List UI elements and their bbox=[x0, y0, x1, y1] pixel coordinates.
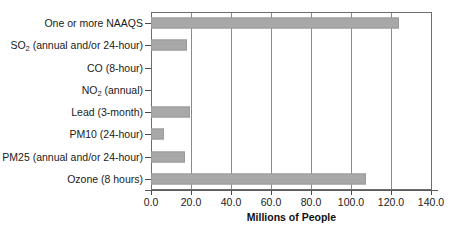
x-tick-label-140: 140.0 bbox=[418, 196, 444, 208]
y-tick bbox=[145, 23, 151, 24]
bar-row bbox=[151, 57, 432, 79]
bar-one-or-more-naaqs bbox=[151, 18, 399, 29]
bar-row bbox=[151, 123, 432, 145]
bar-row bbox=[151, 34, 432, 56]
y-tick bbox=[145, 90, 151, 91]
y-label-pm25: PM25 (annual and/or 24-hour) bbox=[2, 146, 143, 168]
x-tick bbox=[191, 191, 192, 195]
bar-so2 bbox=[151, 40, 187, 51]
bar-row bbox=[151, 79, 432, 101]
bar-row bbox=[151, 12, 432, 34]
y-tick bbox=[145, 157, 151, 158]
y-label-no2: NO2 (annual) bbox=[82, 79, 143, 101]
x-tick bbox=[391, 191, 392, 195]
x-tick bbox=[271, 191, 272, 195]
x-tick-label-0: 0.0 bbox=[144, 196, 159, 208]
y-label-co: CO (8-hour) bbox=[87, 57, 143, 79]
bar-pm10 bbox=[151, 129, 164, 140]
bar-pm25 bbox=[151, 151, 185, 162]
x-tick-label-120: 120.0 bbox=[378, 196, 404, 208]
bar-row bbox=[151, 146, 432, 168]
x-tick bbox=[231, 191, 232, 195]
y-label-lead: Lead (3-month) bbox=[71, 101, 143, 123]
x-tick bbox=[151, 191, 152, 195]
bar-row bbox=[151, 168, 432, 190]
y-tick bbox=[145, 179, 151, 180]
y-tick bbox=[145, 68, 151, 69]
y-label-so2: SO2 (annual and/or 24-hour) bbox=[10, 34, 143, 56]
y-axis-labels: One or more NAAQS SO2 (annual and/or 24-… bbox=[0, 12, 143, 190]
chart-page: One or more NAAQS SO2 (annual and/or 24-… bbox=[0, 0, 452, 234]
x-axis-title: Millions of People bbox=[151, 211, 432, 223]
y-label-ozone: Ozone (8 hours) bbox=[67, 168, 143, 190]
y-tick bbox=[145, 134, 151, 135]
x-tick bbox=[351, 191, 352, 195]
y-tick bbox=[145, 112, 151, 113]
y-axis-ticks bbox=[145, 12, 151, 190]
y-tick bbox=[145, 45, 151, 46]
y-label-one-or-more-naaqs: One or more NAAQS bbox=[44, 12, 143, 34]
x-tick-label-60: 60.0 bbox=[261, 196, 281, 208]
x-tick-label-40: 40.0 bbox=[221, 196, 241, 208]
x-tick-label-20: 20.0 bbox=[181, 196, 201, 208]
bar-ozone bbox=[151, 173, 366, 184]
bar-series bbox=[151, 12, 432, 190]
x-axis-tick-labels: 0.0 20.0 40.0 60.0 80.0 100.0 120.0 140.… bbox=[0, 196, 452, 210]
bar-row bbox=[151, 101, 432, 123]
x-tick-label-80: 80.0 bbox=[301, 196, 321, 208]
y-label-pm10: PM10 (24-hour) bbox=[69, 123, 143, 145]
x-tick-label-100: 100.0 bbox=[338, 196, 364, 208]
x-tick bbox=[311, 191, 312, 195]
bar-lead bbox=[151, 107, 190, 118]
x-tick bbox=[431, 191, 432, 195]
